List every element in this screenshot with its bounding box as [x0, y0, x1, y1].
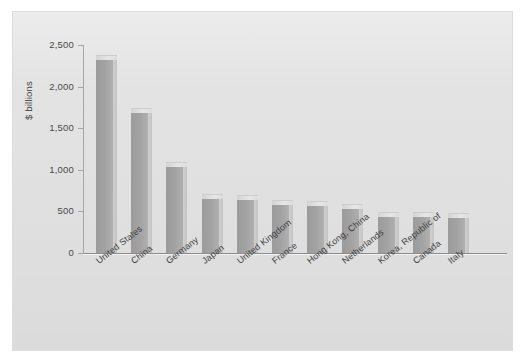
y-axis-tick-label-text: 500: [26, 205, 74, 216]
plot-area: [84, 45, 504, 253]
bar-side-face: [465, 217, 469, 253]
bar-top-highlight: [202, 195, 223, 199]
chart-figure: 05001,0001,5002,0002,500 $ billions Unit…: [0, 0, 525, 361]
bar-top-highlight: [96, 56, 117, 60]
bar-top-face: [448, 213, 469, 217]
bar[interactable]: [166, 166, 187, 253]
y-axis-tick-label: 2,500: [22, 39, 74, 51]
y-axis-tick-label: 0: [22, 247, 74, 259]
bar-top-highlight: [448, 214, 469, 218]
y-axis-tick-label-text: 2,500: [26, 39, 74, 50]
bar-top-highlight: [378, 213, 399, 217]
bar-top-face: [166, 162, 187, 166]
y-axis-title: $ billions: [23, 81, 34, 120]
bar-top-face: [378, 212, 399, 216]
y-axis-tick-label-text: 1,500: [26, 122, 74, 133]
bar-top-highlight: [237, 196, 258, 200]
bar-top-face: [131, 108, 152, 112]
bar-top-highlight: [272, 201, 293, 205]
bar-top-face: [202, 194, 223, 198]
bar[interactable]: [96, 59, 117, 253]
y-axis-tick-label: 1,000: [22, 164, 74, 176]
bar-top-highlight: [131, 109, 152, 113]
bar-top-highlight: [342, 205, 363, 209]
bar-top-highlight: [166, 163, 187, 167]
bar-front-face: [166, 166, 183, 253]
bar-side-face: [113, 59, 117, 253]
bar-front-face: [96, 59, 113, 253]
bar-top-face: [307, 201, 328, 205]
y-axis-tick: [78, 253, 84, 254]
y-axis-tick-label: 1,500: [22, 122, 74, 134]
bar-front-face: [448, 217, 465, 253]
bar-top-face: [272, 200, 293, 204]
y-axis-tick-label-text: 1,000: [26, 164, 74, 175]
bar-top-face: [342, 204, 363, 208]
bar-top-face: [96, 55, 117, 59]
y-axis-tick-label: 500: [22, 205, 74, 217]
y-axis-tick-label-text: 0: [26, 247, 74, 258]
bar-top-highlight: [307, 202, 328, 206]
bar-side-face: [148, 112, 152, 253]
bar-top-face: [237, 195, 258, 199]
